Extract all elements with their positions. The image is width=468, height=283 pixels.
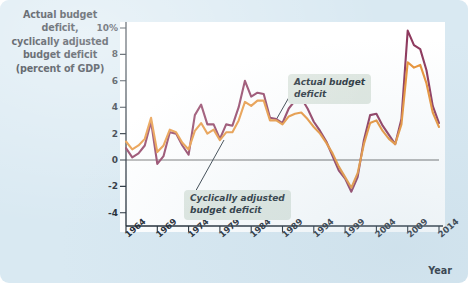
callout-actual-line-2: deficit [294, 89, 365, 101]
figure-budget-deficit-chart: Actual budget deficit, cyclically adjust… [0, 0, 468, 283]
callout-adjusted-line-1: Cyclically adjusted [190, 193, 285, 205]
y-axis-tick-labels: 10%86420-2-4 [80, 22, 118, 232]
callout-actual-budget-deficit: Actual budget deficit [288, 74, 371, 104]
y-axis-tick-label: -2 [84, 181, 118, 191]
callout-adjusted-line-2: budget deficit [190, 205, 285, 217]
callout-cyclically-adjusted-budget-deficit: Cyclically adjusted budget deficit [184, 190, 291, 220]
y-axis-tick-label: 4 [84, 102, 118, 112]
y-axis-tick-label: 2 [84, 129, 118, 139]
y-axis-tick-label: 8 [84, 49, 118, 59]
y-axis-tick-label: 0 [84, 155, 118, 165]
x-axis-label: Year [428, 265, 452, 276]
callout-actual-line-1: Actual budget [294, 77, 365, 89]
series-line [126, 62, 439, 187]
x-axis-tick-labels: 1964196919741979198419891994199920042009… [120, 232, 460, 266]
series-line [126, 31, 439, 192]
y-axis-tick-label: -4 [84, 208, 118, 218]
y-axis-tick-label: 6 [84, 76, 118, 86]
y-axis-tick-label: 10% [84, 23, 118, 33]
